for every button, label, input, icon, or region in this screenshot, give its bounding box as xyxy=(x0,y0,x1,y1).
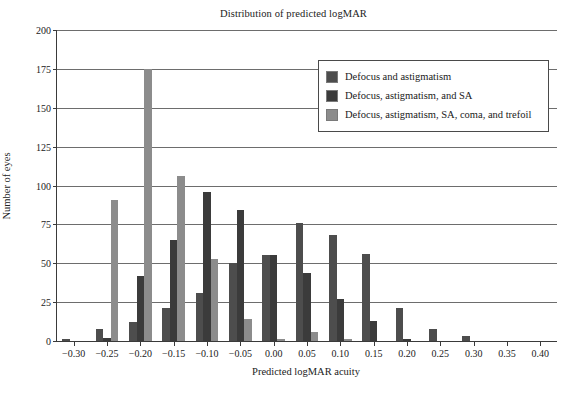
x-axis-tick xyxy=(407,341,408,346)
x-axis-tick-label: 0.35 xyxy=(498,348,516,359)
bar xyxy=(170,240,178,341)
x-axis-tick-label: −0.30 xyxy=(62,348,85,359)
gridline-y xyxy=(57,186,557,187)
x-axis-tick-label: 0.05 xyxy=(298,348,316,359)
x-axis-tick xyxy=(207,341,208,346)
x-axis-tick xyxy=(74,341,75,346)
bar xyxy=(96,329,104,341)
bar xyxy=(311,332,319,341)
y-axis-tick-label: 0 xyxy=(46,336,51,347)
y-axis-tick xyxy=(53,302,57,303)
bar xyxy=(296,223,304,341)
x-axis-tick xyxy=(340,341,341,346)
bar xyxy=(137,276,145,341)
x-axis-label: Predicted logMAR acuity xyxy=(56,366,556,377)
y-axis-tick xyxy=(53,30,57,31)
x-axis-tick-label: 0.25 xyxy=(432,348,450,359)
y-axis-tick-label: 175 xyxy=(36,63,51,74)
y-axis-tick-label: 100 xyxy=(36,180,51,191)
y-axis-tick xyxy=(53,69,57,70)
x-axis-tick-label: 0.30 xyxy=(465,348,483,359)
x-axis-tick xyxy=(507,341,508,346)
x-axis-tick xyxy=(174,341,175,346)
legend-label: Defocus, astigmatism, SA, coma, and tref… xyxy=(345,109,531,120)
x-axis-tick-label: 0.40 xyxy=(532,348,550,359)
bar xyxy=(111,200,119,342)
y-axis-tick xyxy=(53,147,57,148)
x-axis-tick xyxy=(140,341,141,346)
y-axis-tick-label: 125 xyxy=(36,141,51,152)
x-axis-tick xyxy=(107,341,108,346)
bar xyxy=(144,69,152,341)
y-axis-tick xyxy=(53,263,57,264)
bar xyxy=(129,322,137,341)
bar xyxy=(229,263,237,341)
legend-swatch-icon xyxy=(326,90,338,102)
x-axis-tick-label: 0.15 xyxy=(365,348,383,359)
gridline-y xyxy=(57,224,557,225)
bar xyxy=(262,255,270,341)
bar xyxy=(203,192,211,341)
x-axis-tick xyxy=(540,341,541,346)
x-axis-tick xyxy=(440,341,441,346)
y-axis-tick-label: 150 xyxy=(36,102,51,113)
legend-swatch-icon xyxy=(326,109,338,121)
x-axis-tick xyxy=(374,341,375,346)
y-axis-tick-label: 200 xyxy=(36,25,51,36)
x-axis-tick-label: −0.15 xyxy=(162,348,185,359)
bar xyxy=(303,273,311,341)
gridline-y xyxy=(57,263,557,264)
y-axis-tick-label: 50 xyxy=(41,258,51,269)
x-axis-tick-label: −0.20 xyxy=(129,348,152,359)
legend-label: Defocus and astigmatism xyxy=(345,71,451,82)
x-axis-tick xyxy=(474,341,475,346)
y-axis-tick-label: 25 xyxy=(41,297,51,308)
x-axis-tick-label: −0.25 xyxy=(95,348,118,359)
y-axis-tick xyxy=(53,341,57,342)
bar xyxy=(103,338,111,341)
x-axis-tick-label: 0.20 xyxy=(398,348,416,359)
bar xyxy=(329,235,337,341)
bar xyxy=(62,339,70,341)
legend-item[interactable]: Defocus, astigmatism, SA, coma, and tref… xyxy=(326,105,541,124)
chart-legend: Defocus and astigmatismDefocus, astigmat… xyxy=(318,60,549,132)
bar xyxy=(462,336,470,341)
x-axis-tick-label: 0.00 xyxy=(265,348,283,359)
y-axis-tick-label: 75 xyxy=(41,219,51,230)
legend-swatch-icon xyxy=(326,71,338,83)
bar xyxy=(177,176,185,341)
bar xyxy=(337,299,345,341)
bar xyxy=(403,339,411,341)
bar xyxy=(370,321,378,341)
gridline-y xyxy=(57,30,557,31)
bar xyxy=(196,293,204,341)
bar xyxy=(237,210,245,341)
x-axis-tick xyxy=(240,341,241,346)
bar xyxy=(270,255,278,341)
chart-figure: Distribution of predicted logMAR Number … xyxy=(0,0,587,393)
bar xyxy=(277,339,285,341)
bar xyxy=(429,329,437,341)
bar xyxy=(244,319,252,341)
legend-item[interactable]: Defocus and astigmatism xyxy=(326,67,541,86)
x-axis-tick-label: −0.05 xyxy=(229,348,252,359)
x-axis-tick xyxy=(274,341,275,346)
y-axis-tick xyxy=(53,108,57,109)
y-axis-tick xyxy=(53,224,57,225)
legend-label: Defocus, astigmatism, and SA xyxy=(345,90,472,101)
bar xyxy=(162,308,170,341)
bar xyxy=(396,308,404,341)
bar xyxy=(211,259,219,341)
x-axis-tick-label: −0.10 xyxy=(195,348,218,359)
y-axis-label: Number of eyes xyxy=(1,152,12,219)
bar xyxy=(344,339,352,341)
chart-title: Distribution of predicted logMAR xyxy=(0,8,587,19)
legend-item[interactable]: Defocus, astigmatism, and SA xyxy=(326,86,541,105)
x-axis-tick xyxy=(307,341,308,346)
y-axis-tick xyxy=(53,186,57,187)
bar xyxy=(362,254,370,341)
x-axis-tick-label: 0.10 xyxy=(332,348,350,359)
gridline-y xyxy=(57,147,557,148)
